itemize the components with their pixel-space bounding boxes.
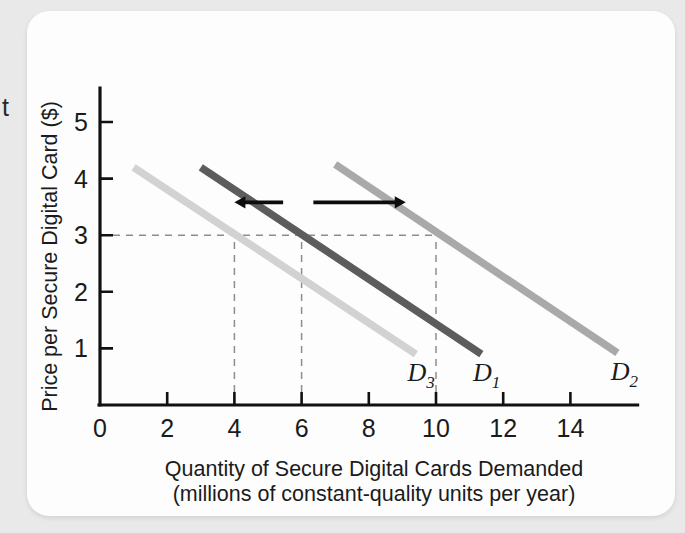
y-tick-label-4: 4: [74, 165, 88, 193]
curve-label-D2: D2: [610, 357, 639, 391]
x-tick-label-0: 0: [93, 414, 107, 442]
curve-label-D1: D1: [472, 358, 500, 392]
y-tick-label-2: 2: [74, 278, 88, 306]
x-axis-title-line-1: Quantity of Secure Digital Cards Demande…: [165, 457, 583, 481]
y-tick-label-1: 1: [74, 334, 88, 362]
y-tick-label-3: 3: [74, 221, 88, 249]
x-tick-label-12: 12: [489, 414, 517, 442]
demand-curve-D3: [134, 167, 416, 354]
curve-label-D3: D3: [406, 358, 434, 392]
demand-curve-D1: [201, 167, 482, 354]
x-tick-label-14: 14: [556, 414, 584, 442]
x-tick-label-10: 10: [422, 414, 450, 442]
demand-curve-chart: D3D1D21234502468101214Price per Secure D…: [27, 11, 675, 516]
x-tick-label-4: 4: [227, 414, 241, 442]
x-tick-label-6: 6: [295, 414, 309, 442]
figure-card: D3D1D21234502468101214Price per Secure D…: [27, 11, 675, 516]
decrease-in-demand-arrow-head: [234, 196, 245, 208]
x-axis-title-line-2: (millions of constant-quality units per …: [173, 482, 576, 506]
y-axis-title: Price per Secure Digital Card ($): [38, 101, 62, 412]
x-tick-label-8: 8: [362, 414, 376, 442]
y-tick-label-5: 5: [74, 108, 88, 136]
x-tick-label-2: 2: [160, 414, 174, 442]
page-bleed-letter: t: [2, 95, 9, 120]
